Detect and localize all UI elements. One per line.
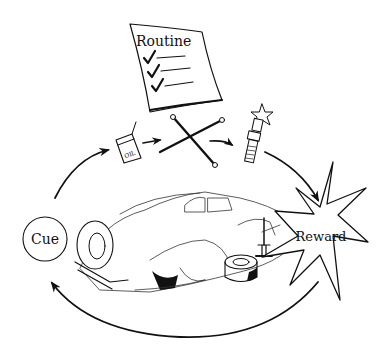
routine-label: Routine xyxy=(136,33,191,49)
cue-node: Cue xyxy=(23,217,67,261)
loop-arrow-cue-to-routine xyxy=(55,150,108,198)
reward-node: Reward xyxy=(262,162,368,300)
routine-checklist: Routine xyxy=(130,24,222,112)
arrow-icon xyxy=(210,141,232,145)
cue-label: Cue xyxy=(31,231,59,247)
reward-label: Reward xyxy=(296,229,347,244)
loop-arrow-routine-to-reward xyxy=(265,152,318,200)
habit-loop-diagram: Routine OIL xyxy=(0,0,388,357)
oil-can-icon: OIL xyxy=(116,122,141,163)
arrow-icon xyxy=(143,140,160,143)
loop-arrow-reward-to-cue xyxy=(52,282,318,337)
car-illustration xyxy=(75,192,300,292)
